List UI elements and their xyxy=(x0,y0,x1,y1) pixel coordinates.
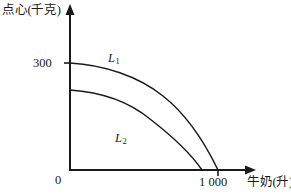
curve-label-L2: L2 xyxy=(115,132,126,145)
y-axis-arrow-icon xyxy=(66,4,75,15)
x-axis-arrow-icon xyxy=(245,166,256,175)
curve-label-L2-subscript: 2 xyxy=(122,136,126,146)
curve-L1 xyxy=(70,63,218,170)
curve-label-L1: L1 xyxy=(108,52,119,65)
curve-L2 xyxy=(70,90,202,170)
production-possibility-chart: 点心(千克) 牛奶(升) 300 0 1 000 L1 L2 xyxy=(0,0,291,196)
curve-label-L1-subscript: 1 xyxy=(115,56,119,66)
y-tick-label-300: 300 xyxy=(33,57,52,70)
chart-canvas xyxy=(0,0,291,196)
x-tick-label-1000: 1 000 xyxy=(199,176,227,189)
x-axis-label: 牛奶(升) xyxy=(247,176,291,189)
curve-label-L1-text: L xyxy=(108,51,115,65)
origin-label: 0 xyxy=(55,174,61,187)
y-axis-label: 点心(千克) xyxy=(2,4,61,17)
curve-label-L2-text: L xyxy=(115,131,122,145)
